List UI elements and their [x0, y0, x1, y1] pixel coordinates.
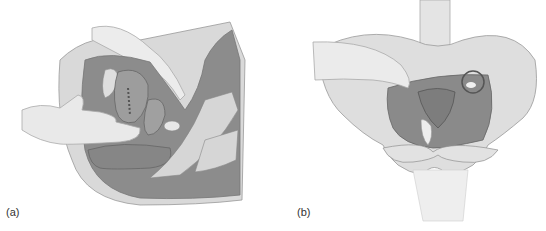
sagittal-pelvis-drawing	[0, 0, 273, 231]
panel-a-label: (a)	[6, 206, 19, 218]
anterior-pelvis-drawing	[273, 0, 546, 231]
panel-b-label: (b)	[297, 206, 310, 218]
panel-b-anterior-illustration: (b)	[273, 0, 546, 231]
panel-a-sagittal-illustration: (a)	[0, 0, 273, 231]
